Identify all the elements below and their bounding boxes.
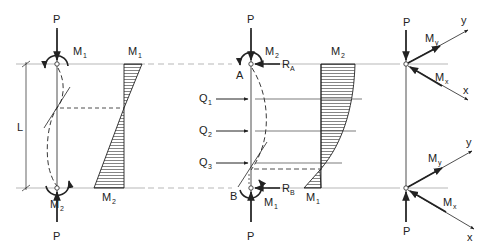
top-mx-label: M x	[435, 71, 449, 85]
svg-text:M: M	[264, 196, 273, 208]
svg-text:M: M	[128, 45, 137, 57]
svg-text:2: 2	[341, 52, 345, 59]
bottom-x-axis-label: x	[467, 231, 473, 243]
top-x-axis-label: x	[463, 84, 469, 96]
svg-text:3: 3	[208, 163, 212, 170]
svg-text:1: 1	[83, 52, 87, 59]
panel-a-end-moments: L P P M 1 M 2 M 1 M 2	[17, 13, 142, 242]
moment-diagram-a	[94, 64, 142, 188]
top-y-axis-label: y	[461, 14, 467, 26]
support-b-label: B	[230, 190, 237, 202]
load-q2-label: Q 2	[199, 124, 212, 138]
bottom-mx-vector-arrow	[410, 191, 446, 212]
svg-text:1: 1	[208, 99, 212, 106]
top-load-label: P	[403, 16, 410, 28]
svg-text:R: R	[282, 58, 290, 70]
panel-c-biaxial-moments: P P M y M x y x M y M x y x	[403, 14, 474, 243]
bottom-moment-label: M 1	[264, 196, 278, 210]
diagram-top-label-b: M 2	[331, 45, 345, 59]
svg-text:M: M	[50, 198, 59, 210]
top-my-vector-arrow	[408, 46, 440, 63]
svg-text:Q: Q	[199, 124, 208, 136]
bottom-load-label: P	[53, 230, 60, 242]
length-label: L	[17, 121, 23, 133]
reaction-b-label: R B	[282, 182, 295, 196]
top-load-label: P	[53, 13, 60, 25]
svg-text:y: y	[438, 159, 442, 167]
diagram-top-label-a: M 1	[128, 45, 142, 59]
bottom-load-label: P	[247, 230, 254, 242]
bottom-mx-label: M x	[443, 196, 457, 210]
svg-text:y: y	[435, 39, 439, 47]
svg-text:1: 1	[316, 198, 320, 205]
svg-text:M: M	[428, 152, 437, 164]
top-moment-label: M 2	[265, 45, 279, 59]
svg-text:x: x	[445, 78, 449, 85]
top-moment-label: M 1	[73, 45, 87, 59]
svg-text:R: R	[282, 182, 290, 194]
svg-text:M: M	[306, 191, 315, 203]
bottom-load-label: P	[403, 225, 410, 237]
svg-text:M: M	[443, 196, 452, 208]
beam-column-diagram: L P P M 1 M 2 M 1 M 2	[0, 0, 490, 252]
reaction-a-label: R A	[282, 58, 295, 72]
load-q1-label: Q 1	[199, 92, 212, 106]
top-load-label: P	[247, 13, 254, 25]
svg-text:2: 2	[60, 205, 64, 212]
svg-text:x: x	[453, 203, 457, 210]
svg-text:Q: Q	[199, 156, 208, 168]
svg-text:2: 2	[112, 198, 116, 205]
svg-text:M: M	[435, 71, 444, 83]
svg-text:M: M	[331, 45, 340, 57]
bottom-my-label: M y	[428, 152, 442, 167]
panel-b-lateral-loads: P P A B M 2 M 1 R A R B Q 1 Q 2 Q 3	[199, 13, 362, 242]
bottom-my-vector-arrow	[408, 168, 442, 187]
diagram-bottom-label-b: M 1	[306, 191, 320, 205]
load-q3-label: Q 3	[199, 156, 212, 170]
svg-text:2: 2	[275, 52, 279, 59]
svg-text:B: B	[290, 189, 295, 196]
svg-text:M: M	[73, 45, 82, 57]
svg-text:1: 1	[274, 203, 278, 210]
diagram-bottom-label-a: M 2	[102, 191, 116, 205]
guide-lines	[16, 64, 448, 188]
svg-text:1: 1	[138, 52, 142, 59]
svg-text:A: A	[290, 65, 295, 72]
bottom-y-axis-label: y	[466, 136, 472, 148]
svg-text:2: 2	[208, 131, 212, 138]
svg-text:M: M	[265, 45, 274, 57]
top-my-label: M y	[425, 32, 439, 47]
svg-text:M: M	[102, 191, 111, 203]
support-a-label: A	[236, 69, 244, 81]
svg-text:M: M	[425, 32, 434, 44]
svg-text:Q: Q	[199, 92, 208, 104]
bottom-moment-label: M 2	[50, 198, 64, 212]
